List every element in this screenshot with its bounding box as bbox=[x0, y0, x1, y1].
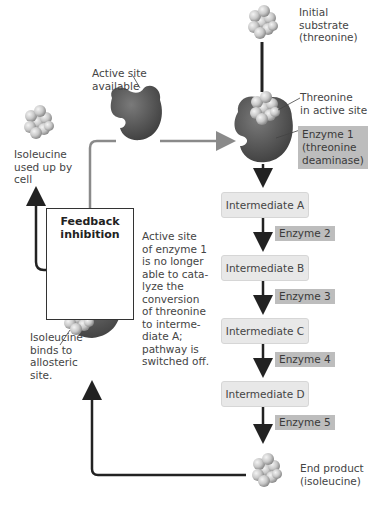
intermediate-label: Intermediate A bbox=[226, 199, 304, 211]
label-line: of enzyme 1 bbox=[142, 243, 209, 256]
threonine-molecule bbox=[248, 5, 278, 39]
label-line: Threonine bbox=[300, 91, 367, 104]
isoleucine-used-molecule bbox=[24, 105, 54, 139]
intermediate-label: Intermediate B bbox=[226, 262, 304, 274]
label-line: Enzyme 1 bbox=[302, 128, 364, 141]
label-line: binds to bbox=[30, 344, 83, 357]
label-line: (isoleucine) bbox=[300, 475, 364, 488]
label-line: diate A; bbox=[142, 330, 209, 343]
label-line: Isoleucine bbox=[14, 148, 72, 161]
enzyme-2-label: Enzyme 2 bbox=[275, 226, 335, 241]
label-line: pathway is bbox=[142, 343, 209, 356]
enzyme-1-label: Enzyme 1 (threonine deaminase) bbox=[298, 126, 368, 169]
intermediate-d-box: Intermediate D bbox=[221, 381, 309, 407]
label-line: in active site bbox=[300, 104, 367, 117]
isoleucine-used-label: Isoleucine used up by cell bbox=[14, 148, 72, 186]
intermediate-label: Intermediate D bbox=[225, 388, 304, 400]
label-line: (threonine bbox=[302, 141, 364, 154]
label-line: (threonine) bbox=[299, 31, 358, 44]
label-line: cell bbox=[14, 173, 72, 186]
label-line: of threonine bbox=[142, 305, 209, 318]
label-line: Initial bbox=[299, 6, 358, 19]
feedback-inhibition-title: Feedback inhibition bbox=[47, 215, 133, 241]
label-line: lyze the bbox=[142, 280, 209, 293]
feedback-inhibition-box: Feedback inhibition bbox=[46, 208, 134, 320]
label-line: deaminase) bbox=[302, 154, 364, 167]
intermediate-c-box: Intermediate C bbox=[221, 318, 309, 344]
enzyme-3-label: Enzyme 3 bbox=[275, 289, 335, 304]
initial-substrate-label: Initial substrate (threonine) bbox=[299, 6, 358, 44]
label-line: able to cata- bbox=[142, 268, 209, 281]
active-site-blocked-label: Active site of enzyme 1 is no longer abl… bbox=[142, 230, 209, 368]
intermediate-b-box: Intermediate B bbox=[221, 255, 309, 281]
label-line: Active site bbox=[142, 230, 209, 243]
label-line: End product bbox=[300, 462, 364, 475]
label-line: to interme- bbox=[142, 318, 209, 331]
intermediate-label: Intermediate C bbox=[226, 325, 304, 337]
label-line: available bbox=[92, 80, 147, 93]
threonine-in-active-site-label: Threonine in active site bbox=[300, 91, 367, 116]
label-line: conversion bbox=[142, 293, 209, 306]
label-line: Active site bbox=[92, 67, 147, 80]
label-line: switched off. bbox=[142, 355, 209, 368]
intermediate-a-box: Intermediate A bbox=[221, 192, 309, 218]
end-product-label: End product (isoleucine) bbox=[300, 462, 364, 487]
label-line: allosteric bbox=[30, 356, 83, 369]
enzyme-free-shape bbox=[111, 86, 162, 140]
label-line: site. bbox=[30, 369, 83, 382]
label-line: substrate bbox=[299, 19, 358, 32]
label-line: is no longer bbox=[142, 255, 209, 268]
active-site-available-label: Active site available bbox=[92, 67, 147, 92]
label-line: Feedback bbox=[47, 215, 133, 228]
isoleucine-end-product-molecule bbox=[252, 453, 282, 487]
label-line: inhibition bbox=[47, 228, 133, 241]
label-line: used up by bbox=[14, 161, 72, 174]
enzyme-4-label: Enzyme 4 bbox=[275, 352, 335, 367]
enzyme-5-label: Enzyme 5 bbox=[275, 415, 335, 430]
label-line: Isoleucine bbox=[30, 331, 83, 344]
isoleucine-binds-label: Isoleucine binds to allosteric site. bbox=[30, 331, 83, 381]
